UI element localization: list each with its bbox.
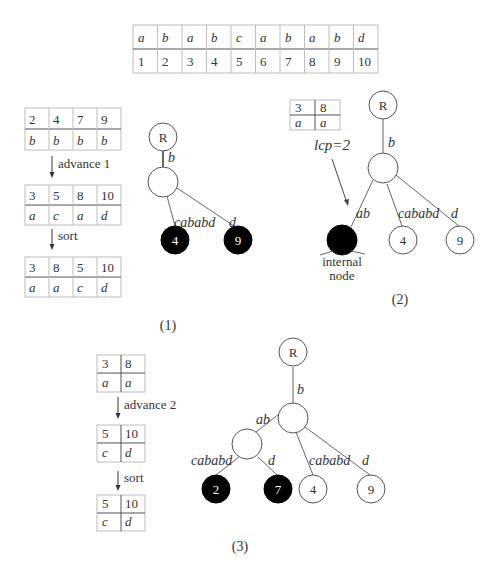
panel1-table-2: 3 5 8 10 a c a d xyxy=(25,185,121,225)
string-table: a b a b c a b a b d 1 2 3 4 5 6 7 8 9 10 xyxy=(133,25,378,73)
string-char: c xyxy=(236,30,242,45)
table-position: 8 xyxy=(77,188,84,203)
edge-label: b xyxy=(388,135,395,150)
table-char: d xyxy=(101,208,108,223)
edge-label: cababd xyxy=(191,453,233,468)
leaf-label: 2 xyxy=(213,482,220,497)
down-arrow-icon xyxy=(116,413,121,419)
table-position: 3 xyxy=(29,188,36,203)
root-label: R xyxy=(289,345,298,360)
string-position: 7 xyxy=(285,54,292,69)
panel2-caption: (2) xyxy=(392,292,409,308)
table-char: b xyxy=(101,133,108,148)
table-char: a xyxy=(53,280,60,295)
down-arrow-icon xyxy=(50,244,55,250)
table-position: 10 xyxy=(101,260,114,275)
edge-label: d xyxy=(451,206,459,221)
internal-node-label: internal xyxy=(322,254,362,269)
new-internal-node xyxy=(327,225,357,255)
table-position: 8 xyxy=(125,356,132,371)
table-position: 9 xyxy=(101,112,108,127)
leaf-label: 9 xyxy=(368,482,375,497)
string-position: 1 xyxy=(138,54,145,69)
panel3-table-2: 5 10 c d xyxy=(97,425,145,462)
table-char: d xyxy=(101,280,108,295)
string-char: a xyxy=(138,30,145,45)
table-char: d xyxy=(125,514,132,529)
table-char: a xyxy=(29,208,36,223)
root-label: R xyxy=(159,130,168,145)
string-position: 9 xyxy=(334,54,341,69)
down-arrow-icon xyxy=(50,172,55,178)
panel2-tree: R b ab cababd d 4 9 xyxy=(320,91,474,255)
string-char: b xyxy=(334,30,341,45)
panel3-caption: (3) xyxy=(232,539,249,555)
table-position: 3 xyxy=(295,100,302,115)
panel1-step-advance: advance 1 xyxy=(50,156,111,178)
panel3-tree: R b ab cababd d cababd d 2 7 4 9 xyxy=(191,338,385,503)
leaf-label: 4 xyxy=(400,233,407,248)
internal-node-label: node xyxy=(329,268,355,283)
internal-node xyxy=(148,167,178,197)
table-char: c xyxy=(102,445,108,460)
string-position: 4 xyxy=(211,54,218,69)
table-char: c xyxy=(102,514,108,529)
panel3-step-advance: advance 2 xyxy=(116,397,177,419)
table-position: 5 xyxy=(53,188,60,203)
leaf-label: 7 xyxy=(275,482,282,497)
string-char: b xyxy=(285,30,292,45)
step-label: sort xyxy=(58,228,78,243)
edge-label: ab xyxy=(356,206,370,221)
table-position: 8 xyxy=(53,260,60,275)
string-char: b xyxy=(211,30,218,45)
edge-label: b xyxy=(168,150,175,165)
panel3-step-sort: sort xyxy=(116,470,144,491)
table-position: 10 xyxy=(125,426,138,441)
table-position: 3 xyxy=(102,356,109,371)
table-char: a xyxy=(125,375,132,390)
table-char: c xyxy=(77,280,83,295)
string-position: 10 xyxy=(358,54,371,69)
table-position: 8 xyxy=(320,100,327,115)
string-position: 8 xyxy=(309,54,316,69)
table-position: 10 xyxy=(101,188,114,203)
table-char: a xyxy=(295,115,302,130)
table-position: 5 xyxy=(102,496,109,511)
step-label: advance 2 xyxy=(124,397,176,412)
string-char: a xyxy=(187,30,194,45)
table-char: b xyxy=(29,133,36,148)
table-char: b xyxy=(77,133,84,148)
table-char: c xyxy=(53,208,59,223)
panel2-table: 3 8 a a xyxy=(290,100,340,130)
table-char: a xyxy=(77,208,84,223)
table-char: a xyxy=(102,375,109,390)
panel3-table-3: 5 10 c d xyxy=(97,495,145,531)
suffix-tree-construction-diagram: a b a b c a b a b d 1 2 3 4 5 6 7 8 9 10… xyxy=(0,0,498,575)
internal-node xyxy=(232,429,262,459)
down-arrow-icon xyxy=(116,485,121,491)
edge-label: b xyxy=(297,382,304,397)
table-position: 10 xyxy=(125,496,138,511)
step-label: sort xyxy=(124,470,144,485)
edge-label: cababd xyxy=(398,206,440,221)
panel1-caption: (1) xyxy=(160,318,177,334)
edge-label: cababd xyxy=(309,453,351,468)
table-char: a xyxy=(320,115,327,130)
table-position: 7 xyxy=(77,112,84,127)
panel1-step-sort: sort xyxy=(50,228,78,250)
string-position: 5 xyxy=(236,54,243,69)
table-position: 5 xyxy=(77,260,84,275)
string-char: d xyxy=(358,30,365,45)
string-char: b xyxy=(162,30,169,45)
lcp-annotation: lcp=2 xyxy=(314,137,350,153)
edge-label: ab xyxy=(256,412,270,427)
leaf-label: 4 xyxy=(172,233,179,248)
panel1-table-3: 3 8 5 10 a a c d xyxy=(25,257,121,297)
internal-node xyxy=(278,403,308,433)
root-label: R xyxy=(379,98,388,113)
table-position: 4 xyxy=(53,112,60,127)
table-position: 3 xyxy=(29,260,36,275)
panel1-table-1: 2 4 7 9 b b b b xyxy=(25,108,121,150)
arrow-head-icon xyxy=(344,199,349,206)
leaf-label: 9 xyxy=(235,233,242,248)
